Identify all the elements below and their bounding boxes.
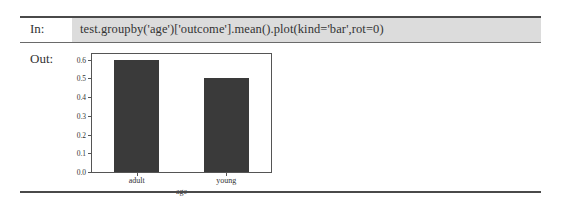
- y-tick: [88, 116, 92, 117]
- y-tick: [88, 97, 92, 98]
- x-tick-label: young: [216, 176, 236, 185]
- y-tick: [88, 153, 92, 154]
- y-tick-label: 0.2: [77, 130, 86, 139]
- bar-young: [204, 78, 249, 172]
- y-tick: [88, 78, 92, 79]
- bottom-rule: [20, 191, 541, 193]
- y-tick-label: 0.3: [77, 111, 86, 120]
- x-tick-label: adult: [129, 176, 145, 185]
- y-tick-label: 0.4: [77, 93, 86, 102]
- y-tick-label: 0.6: [77, 55, 86, 64]
- y-tick: [88, 60, 92, 61]
- bar-adult: [114, 60, 159, 172]
- y-tick-label: 0.1: [77, 149, 86, 158]
- bar-chart: age 0.00.10.20.30.40.50.6adultyoung: [0, 0, 562, 211]
- y-tick-label: 0.5: [77, 74, 86, 83]
- y-tick: [88, 135, 92, 136]
- chart-axes: age 0.00.10.20.30.40.50.6adultyoung: [91, 53, 272, 173]
- y-tick-label: 0.0: [77, 168, 86, 177]
- y-tick: [88, 172, 92, 173]
